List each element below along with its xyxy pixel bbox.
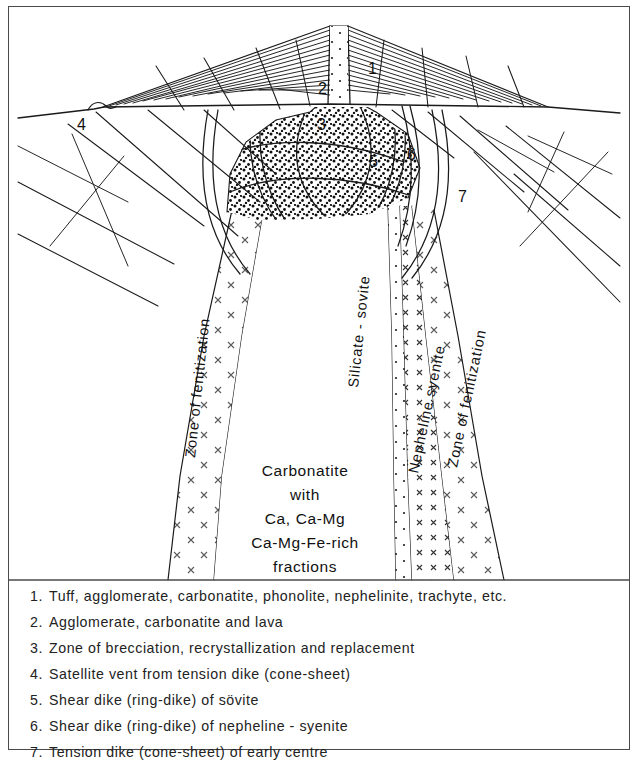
legend-item-number: 2. — [30, 614, 49, 630]
figure-page: 1 2 3 4 5 6 7 Zone of fenitization Silic… — [0, 0, 640, 764]
legend-item-number: 7. — [30, 744, 49, 760]
legend-item-number: 6. — [30, 718, 49, 734]
callout-3: 3 — [317, 116, 326, 133]
core-line-4: Ca-Mg-Fe-rich — [251, 534, 359, 551]
legend-item: 5. Shear dike (ring-dike) of sövite — [30, 692, 610, 718]
legend-item-text: Tension dike (cone-sheet) of early centr… — [49, 744, 610, 760]
callout-6: 6 — [407, 146, 416, 163]
legend-item: 2. Agglomerate, carbonatite and lava — [30, 614, 610, 640]
legend-item: 3. Zone of brecciation, recrystallizatio… — [30, 640, 610, 666]
legend-item-text: Shear dike (ring-dike) of sövite — [49, 692, 610, 708]
legend-item-text: Tuff, agglomerate, carbonatite, phonolit… — [49, 588, 610, 604]
legend-item-number: 5. — [30, 692, 49, 708]
callout-4: 4 — [77, 116, 86, 133]
legend-item-text: Satellite vent from tension dike (cone-s… — [49, 666, 610, 682]
legend-item-text: Agglomerate, carbonatite and lava — [49, 614, 610, 630]
legend-item: 4. Satellite vent from tension dike (con… — [30, 666, 610, 692]
core-line-5: fractions — [273, 558, 337, 575]
legend-item: 7. Tension dike (cone-sheet) of early ce… — [30, 744, 610, 764]
legend-list: 1. Tuff, agglomerate, carbonatite, phono… — [30, 588, 610, 764]
legend-item: 6. Shear dike (ring-dike) of nepheline -… — [30, 718, 610, 744]
legend-item: 1. Tuff, agglomerate, carbonatite, phono… — [30, 588, 610, 614]
core-line-2: with — [289, 486, 320, 503]
callout-2: 2 — [318, 80, 327, 97]
legend-item-number: 1. — [30, 588, 49, 604]
callout-7: 7 — [458, 188, 467, 205]
legend-item-number: 4. — [30, 666, 49, 682]
core-line-1: Carbonatite — [262, 462, 349, 479]
callout-1: 1 — [368, 60, 377, 77]
legend-item-text: Shear dike (ring-dike) of nepheline - sy… — [49, 718, 610, 734]
callout-5: 5 — [369, 153, 378, 170]
legend-item-text: Zone of brecciation, recrystallization a… — [49, 640, 610, 656]
core-line-3: Ca, Ca-Mg — [265, 510, 345, 527]
volcanic-cone — [103, 26, 548, 110]
legend-item-number: 3. — [30, 640, 49, 656]
